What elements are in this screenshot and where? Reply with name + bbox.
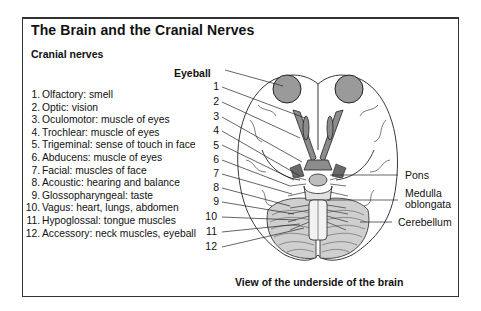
nerve-number-label: 10: [203, 210, 217, 222]
brain-underside-illustration: [0, 0, 481, 311]
cerebellum-label: Cerebellum: [398, 217, 452, 228]
nerve-number-label: 4: [205, 124, 219, 136]
pons-label: Pons: [405, 170, 429, 181]
nerve-number-label: 6: [205, 153, 219, 165]
eyeball-label: Eyeball: [174, 67, 211, 79]
figure-caption: View of the underside of the brain: [235, 276, 403, 288]
right-eyeball: [335, 75, 363, 103]
nerve-number-label: 8: [205, 181, 219, 193]
medulla-label-line2: oblongata: [405, 199, 451, 210]
nerve-number-label: 3: [205, 110, 219, 122]
nerve-number-label: 7: [205, 167, 219, 179]
left-eyeball: [273, 75, 301, 103]
nerve-number-label: 2: [205, 95, 219, 107]
nerve-number-label: 12: [203, 240, 217, 252]
nerve-number-label: 11: [203, 225, 217, 237]
nerve-number-label: 5: [205, 139, 219, 151]
nerve-number-label: 9: [205, 195, 219, 207]
nerve-number-label: 1: [205, 80, 219, 92]
